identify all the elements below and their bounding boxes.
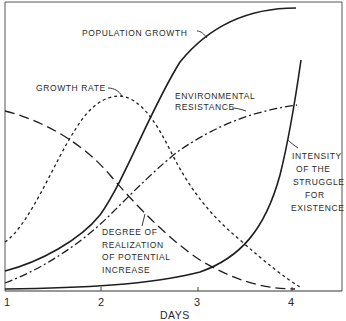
label-population-growth: POPULATION GROWTH bbox=[82, 28, 187, 38]
plot-frame bbox=[5, 2, 342, 291]
x-tick-1: 1 bbox=[4, 296, 10, 308]
ecology-chart: 1 2 3 4 DAYS POPULATION GROWTH GROWTH RA… bbox=[0, 0, 346, 321]
x-tick-2: 2 bbox=[98, 296, 104, 308]
label-arrows bbox=[108, 31, 298, 226]
label-growth-rate: GROWTH RATE bbox=[36, 83, 106, 93]
label-degree-2: REALIZATION bbox=[102, 240, 164, 250]
label-intensity-3: STRUGGLE bbox=[293, 177, 345, 187]
x-tick-3: 3 bbox=[194, 296, 200, 308]
label-resistance: RESISTANCE bbox=[175, 102, 235, 112]
label-intensity-4: FOR bbox=[305, 190, 325, 200]
x-axis-label: DAYS bbox=[160, 309, 190, 321]
label-degree-1: DEGREE OF bbox=[102, 227, 157, 237]
label-intensity-1: INTENSITY bbox=[292, 151, 342, 161]
label-intensity-5: EXISTENCE bbox=[291, 203, 345, 213]
label-environmental: ENVIRONMENTAL bbox=[175, 91, 255, 101]
x-tick-4: 4 bbox=[288, 296, 294, 308]
label-intensity-2: OF THE bbox=[296, 164, 331, 174]
label-degree-3: OF POTENTIAL bbox=[102, 252, 171, 262]
label-degree-4: INCREASE bbox=[102, 265, 150, 275]
